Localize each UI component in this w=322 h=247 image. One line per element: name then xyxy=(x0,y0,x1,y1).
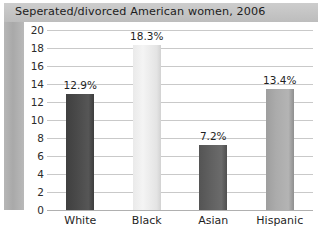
bar-value-label-white: 12.9% xyxy=(64,79,97,91)
y-axis-tick-label: 2 xyxy=(4,186,44,198)
bar-asian[interactable] xyxy=(199,145,227,210)
plot-area: 12.9%18.3%7.2%13.4% xyxy=(47,30,313,210)
gridline xyxy=(47,210,313,211)
x-axis-tick-label-white: White xyxy=(64,214,96,227)
y-axis-tick-label: 4 xyxy=(4,168,44,180)
x-axis-tick-label-asian: Asian xyxy=(198,214,228,227)
y-axis-tick-label: 6 xyxy=(4,150,44,162)
bar-value-label-asian: 7.2% xyxy=(200,130,227,142)
x-axis-tick-label-black: Black xyxy=(132,214,162,227)
y-axis-tick-label: 16 xyxy=(4,60,44,72)
y-axis-tick-label: 0 xyxy=(4,204,44,216)
y-axis-tick-label: 18 xyxy=(4,42,44,54)
gridline xyxy=(47,30,313,31)
y-axis-tick-label: 8 xyxy=(4,132,44,144)
bar-white[interactable] xyxy=(66,94,94,210)
y-axis-tick-label: 10 xyxy=(4,114,44,126)
bar-value-label-black: 18.3% xyxy=(130,30,163,42)
y-axis-tick-label: 20 xyxy=(4,24,44,36)
gridline xyxy=(47,66,313,67)
bar-hispanic[interactable] xyxy=(266,89,294,210)
x-axis-tick-label-hispanic: Hispanic xyxy=(256,214,303,227)
gridline xyxy=(47,48,313,49)
page-title: Seperated/divorced American women, 2006 xyxy=(15,5,265,18)
y-axis: 20181614121086420 xyxy=(0,30,44,210)
y-axis-tick-label: 14 xyxy=(4,78,44,90)
bar-value-label-hispanic: 13.4% xyxy=(263,74,296,86)
bar-chart-figure: Seperated/divorced American women, 2006 … xyxy=(0,0,322,247)
chart-title-band: Seperated/divorced American women, 2006 xyxy=(4,3,318,22)
bar-black[interactable] xyxy=(133,45,161,210)
x-axis: WhiteBlackAsianHispanic xyxy=(47,214,313,238)
y-axis-tick-label: 12 xyxy=(4,96,44,108)
